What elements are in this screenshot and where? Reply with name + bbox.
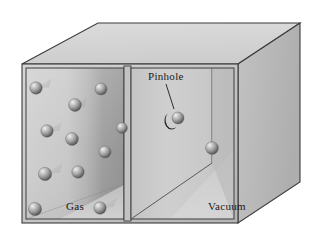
vacuum-chamber: [131, 68, 234, 219]
gas-particle: [117, 123, 128, 134]
gas-particle: [38, 167, 51, 180]
gas-particle: [72, 166, 84, 178]
gas-particle: [66, 133, 79, 146]
vacuum-particle: [206, 142, 219, 155]
effusion-diagram: Gas Vacuum Pinhole: [0, 0, 317, 243]
vacuum-chamber-label: Vacuum: [208, 200, 246, 212]
gas-particle: [95, 83, 107, 95]
gas-particle: [69, 99, 82, 112]
vacuum-particle-group: [206, 142, 219, 155]
gas-chamber-label: Gas: [66, 200, 84, 212]
diagram-canvas: [0, 0, 317, 243]
escaping-particle: [172, 112, 184, 124]
chamber-divider-wall: [124, 66, 131, 221]
gas-particle: [30, 82, 42, 94]
pinhole-label: Pinhole: [148, 70, 184, 82]
gas-particle: [41, 125, 53, 137]
gas-particle: [28, 202, 41, 215]
gas-particle: [99, 146, 111, 158]
divider-plate: [124, 66, 131, 221]
gas-particle: [94, 202, 106, 214]
